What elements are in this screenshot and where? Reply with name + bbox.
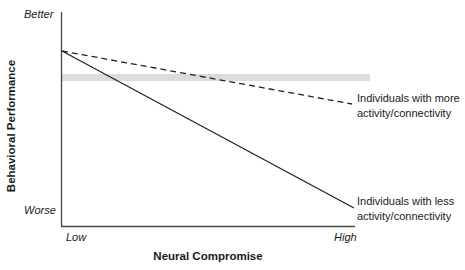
y-tick-worse: Worse xyxy=(24,204,56,216)
legend-less-line2: activity/connectivity xyxy=(357,209,454,224)
legend-more-line1: Individuals with more xyxy=(357,91,460,106)
threshold-band xyxy=(62,74,370,81)
y-axis-title: Behavioral Performance xyxy=(5,60,17,192)
legend-more-activity: Individuals with more activity/connectiv… xyxy=(357,91,460,121)
chart-plot-area xyxy=(0,0,465,270)
x-axis-title: Neural Compromise xyxy=(153,250,262,262)
y-tick-better: Better xyxy=(24,8,53,20)
legend-more-line2: activity/connectivity xyxy=(357,106,460,121)
legend-less-activity: Individuals with less activity/connectiv… xyxy=(357,194,454,224)
x-tick-low: Low xyxy=(66,231,86,243)
legend-less-line1: Individuals with less xyxy=(357,194,454,209)
x-tick-high: High xyxy=(334,231,357,243)
